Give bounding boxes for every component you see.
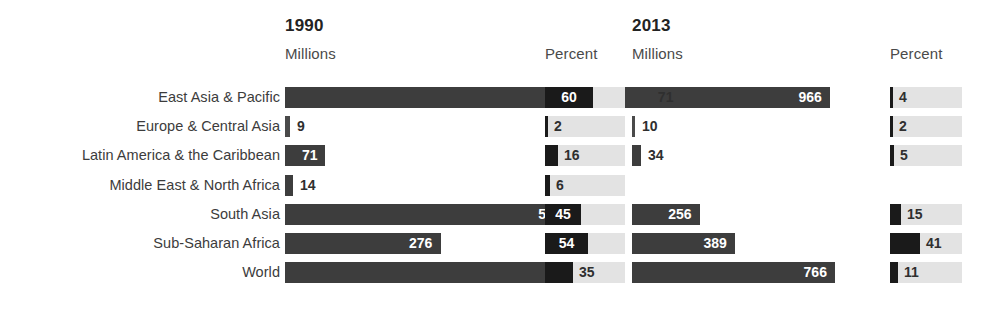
percent-fill: [890, 116, 893, 137]
percent-fill: [545, 175, 550, 196]
percent-value: 15: [907, 204, 923, 225]
millions-value: 9: [297, 116, 305, 137]
millions-value: 34: [648, 145, 664, 166]
row-label: Latin America & the Caribbean: [82, 141, 280, 170]
row-label: South Asia: [210, 200, 280, 229]
chart-row: World1,8413576611: [0, 258, 982, 287]
chart-row: East Asia & Pacific96660714: [0, 83, 982, 112]
percent-value: 11: [904, 262, 919, 283]
percent-fill: [545, 262, 573, 283]
percent-value: 35: [579, 262, 595, 283]
percent-value: 41: [926, 233, 942, 254]
percent-track: [890, 262, 962, 283]
header-year-1990: 1990: [285, 16, 324, 36]
percent-track: [545, 145, 625, 166]
millions-value: 14: [300, 175, 316, 196]
bar-fill: [632, 87, 651, 108]
millions-value: 966: [799, 87, 822, 108]
percent-value: 6: [556, 175, 564, 196]
bar-fill: [285, 204, 570, 225]
millions-bar: [285, 175, 293, 196]
percent-value: 54: [545, 233, 588, 254]
row-label: East Asia & Pacific: [158, 83, 280, 112]
millions-value: 71: [302, 145, 316, 166]
grouped-bar-chart: 1990 Millions Percent 2013 Millions Perc…: [0, 0, 982, 335]
row-label: Europe & Central Asia: [136, 112, 280, 141]
chart-row: Sub-Saharan Africa2765438941: [0, 229, 982, 258]
row-label: World: [242, 258, 280, 287]
percent-fill: [890, 145, 894, 166]
millions-value: 766: [804, 262, 827, 283]
header-units-1990: Millions: [285, 45, 336, 62]
bar-fill: [285, 116, 290, 137]
percent-value: 2: [554, 116, 562, 137]
row-label: Middle East & North Africa: [109, 171, 280, 200]
millions-value: 10: [642, 116, 658, 137]
millions-bar: [632, 116, 635, 137]
bar-fill: [632, 145, 641, 166]
percent-value: 2: [899, 116, 907, 137]
header-year-2013: 2013: [632, 16, 671, 36]
percent-value: 4: [899, 87, 907, 108]
row-label: Sub-Saharan Africa: [153, 229, 280, 258]
header-percent-2013: Percent: [890, 45, 942, 62]
percent-track: [890, 204, 962, 225]
bar-fill: [285, 175, 293, 196]
percent-fill: [890, 87, 893, 108]
chart-row: Latin America & the Caribbean7116345: [0, 141, 982, 170]
millions-value: 389: [703, 233, 726, 254]
millions-bar: [632, 87, 651, 108]
percent-fill: [890, 204, 901, 225]
percent-fill: [890, 262, 898, 283]
chart-row: Middle East & North Africa146: [0, 171, 982, 200]
millions-bar: [285, 116, 290, 137]
percent-value: 60: [545, 87, 593, 108]
bar-fill: [632, 116, 635, 137]
millions-value: 256: [668, 204, 691, 225]
percent-value: 45: [545, 204, 581, 225]
millions-bar: [632, 145, 641, 166]
chart-row: Europe & Central Asia92102: [0, 112, 982, 141]
chart-row: South Asia5054525615: [0, 200, 982, 229]
percent-fill: [545, 145, 558, 166]
millions-value: 71: [658, 87, 674, 108]
percent-value: 16: [564, 145, 580, 166]
header-percent-1990: Percent: [545, 45, 597, 62]
percent-value: 5: [900, 145, 908, 166]
millions-bar: [285, 204, 570, 225]
header-units-2013: Millions: [632, 45, 683, 62]
percent-fill: [545, 116, 548, 137]
millions-value: 276: [409, 233, 432, 254]
percent-fill: [890, 233, 920, 254]
